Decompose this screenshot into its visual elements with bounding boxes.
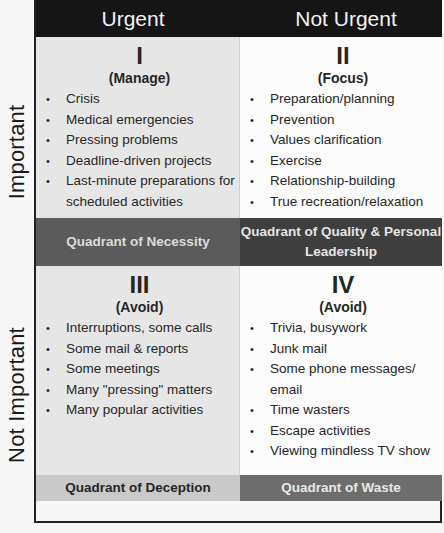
column-header-not-urgent: Not Urgent <box>240 0 442 37</box>
list-item: Some mail & reports <box>44 339 235 360</box>
list-item: Many "pressing" matters <box>44 380 235 401</box>
list-item: Medical emergencies <box>44 110 235 131</box>
list-item: Deadline-driven projects <box>44 151 235 172</box>
quadrant-3-footer: Quadrant of Deception <box>36 475 240 501</box>
row-label-important: Important <box>0 37 34 267</box>
quadrant-4: IV (Avoid) Trivia, busywork Junk mail So… <box>240 266 442 475</box>
list-item: Exercise <box>248 151 438 172</box>
list-item: Trivia, busywork <box>248 318 438 339</box>
list-item: Last-minute preparations for scheduled a… <box>44 171 235 212</box>
quadrant-subtitle: (Avoid) <box>248 298 438 316</box>
list-item: Viewing mindless TV show <box>248 441 438 462</box>
quadrant-subtitle: (Manage) <box>44 69 235 87</box>
quadrant-list: Interruptions, some calls Some mail & re… <box>44 318 235 421</box>
list-item: Some meetings <box>44 359 235 380</box>
matrix-grid: Urgent Not Urgent I (Manage) Crisis Medi… <box>34 0 442 523</box>
quadrant-subtitle: (Focus) <box>248 69 438 87</box>
quadrant-2: II (Focus) Preparation/planning Preventi… <box>240 37 442 218</box>
quadrant-3: III (Avoid) Interruptions, some calls So… <box>36 266 240 475</box>
quadrant-1: I (Manage) Crisis Medical emergencies Pr… <box>36 37 240 218</box>
quadrant-numeral: III <box>44 272 235 298</box>
list-item: Many popular activities <box>44 400 235 421</box>
row-label-important-text: Important <box>4 105 30 200</box>
quadrant-numeral: II <box>248 43 438 69</box>
list-item: Preparation/planning <box>248 89 438 110</box>
quadrant-2-footer: Quadrant of Quality & Personal Leadershi… <box>240 218 442 266</box>
quadrant-4-footer: Quadrant of Waste <box>240 475 442 501</box>
list-item: Prevention <box>248 110 438 131</box>
list-item: Some phone messages/ email <box>248 359 438 400</box>
quadrant-subtitle: (Avoid) <box>44 298 235 316</box>
eisenhower-matrix: Important Not Important Urgent Not Urgen… <box>0 0 444 533</box>
column-header-urgent: Urgent <box>36 0 240 37</box>
quadrant-numeral: IV <box>248 272 438 298</box>
list-item: True recreation/relaxation <box>248 192 438 213</box>
quadrant-list: Trivia, busywork Junk mail Some phone me… <box>248 318 438 462</box>
quadrant-list: Preparation/planning Prevention Values c… <box>248 89 438 212</box>
row-label-not-important-text: Not Important <box>4 327 30 463</box>
list-item: Pressing problems <box>44 130 235 151</box>
list-item: Crisis <box>44 89 235 110</box>
list-item: Time wasters <box>248 400 438 421</box>
list-item: Relationship-building <box>248 171 438 192</box>
list-item: Junk mail <box>248 339 438 360</box>
quadrant-list: Crisis Medical emergencies Pressing prob… <box>44 89 235 212</box>
list-item: Values clarification <box>248 130 438 151</box>
quadrant-numeral: I <box>44 43 235 69</box>
list-item: Interruptions, some calls <box>44 318 235 339</box>
list-item: Escape activities <box>248 421 438 442</box>
row-label-not-important: Not Important <box>0 267 34 523</box>
quadrant-1-footer: Quadrant of Necessity <box>36 218 240 266</box>
